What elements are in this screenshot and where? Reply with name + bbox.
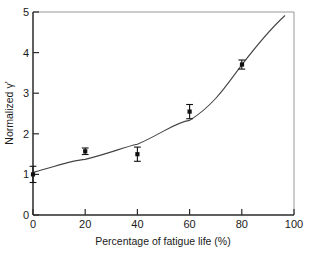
x-tick-label-20: 20 bbox=[79, 218, 91, 230]
fatigue-life-chart: 5 4 3 2 1 0 0 20 40 60 80 100 Percentage… bbox=[0, 0, 325, 254]
data-point-20 bbox=[82, 148, 89, 155]
x-axis-ticks bbox=[33, 209, 294, 215]
data-point-40 bbox=[134, 147, 141, 161]
y-tick-label-4: 4 bbox=[23, 47, 29, 59]
y-axis-title: Normalized γ' bbox=[3, 81, 15, 144]
x-tick-label-40: 40 bbox=[131, 218, 143, 230]
y-axis-ticks bbox=[33, 12, 39, 215]
y-tick-label-3: 3 bbox=[23, 87, 29, 99]
x-tick-label-100: 100 bbox=[285, 218, 303, 230]
y-tick-label-0: 0 bbox=[23, 209, 29, 221]
x-axis-title: Percentage of fatigue life (%) bbox=[95, 235, 230, 247]
x-tick-label-80: 80 bbox=[236, 218, 248, 230]
fit-curve bbox=[33, 16, 285, 173]
plot-frame bbox=[33, 12, 294, 215]
x-tick-label-60: 60 bbox=[183, 218, 195, 230]
y-tick-label-5: 5 bbox=[23, 6, 29, 18]
y-tick-label-2: 2 bbox=[23, 128, 29, 140]
x-tick-label-0: 0 bbox=[30, 218, 36, 230]
y-tick-label-1: 1 bbox=[23, 168, 29, 180]
data-point-60 bbox=[186, 105, 193, 119]
